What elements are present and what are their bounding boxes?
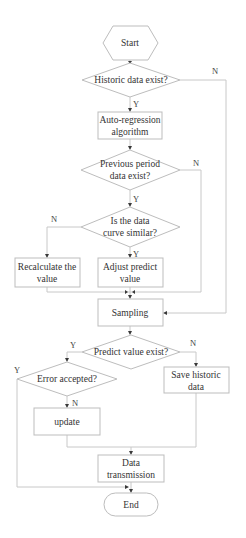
decision-previous-period-data-exist: Previous period data exist? <box>81 150 180 190</box>
end-node: End <box>104 493 158 516</box>
svg-text:Predict value exist?: Predict value exist? <box>94 347 168 357</box>
svg-text:algorithm: algorithm <box>112 127 150 137</box>
svg-text:Error accepted?: Error accepted? <box>37 374 97 384</box>
edge-label-yes: Y <box>133 99 139 109</box>
edge-label-no: N <box>193 158 199 168</box>
svg-text:Previous period: Previous period <box>100 159 160 169</box>
decision-curve-similar: Is the data curve similar? <box>81 207 180 247</box>
edge-label-yes: Y <box>133 194 139 204</box>
svg-text:Sampling: Sampling <box>112 308 149 318</box>
edge-label-no: N <box>72 398 78 408</box>
svg-text:value: value <box>120 274 141 284</box>
process-save-historic-data: Save historic data <box>164 367 229 393</box>
svg-text:Is the data: Is the data <box>110 216 150 226</box>
svg-text:Adjust predict: Adjust predict <box>103 262 157 272</box>
svg-text:Auto-regression: Auto-regression <box>99 115 160 125</box>
process-adjust-predict-value: Adjust predict value <box>98 258 163 287</box>
process-sampling: Sampling <box>98 299 163 326</box>
process-data-transmission: Data transmission <box>98 455 164 482</box>
decision-error-accepted: Error accepted? <box>17 362 117 396</box>
flowchart: Start Historic data exist? N Y Auto-regr… <box>0 0 246 538</box>
edge-label-no: N <box>190 338 196 348</box>
svg-text:Start: Start <box>121 38 139 48</box>
process-auto-regression: Auto-regression algorithm <box>98 112 162 139</box>
svg-text:data exist?: data exist? <box>110 171 150 181</box>
svg-text:Historic data exist?: Historic data exist? <box>94 75 167 85</box>
svg-text:Data: Data <box>122 458 141 468</box>
edge-label-no: N <box>212 66 218 76</box>
decision-predict-value-exist: Predict value exist? <box>82 335 180 369</box>
edge-label-no: N <box>51 214 57 224</box>
start-node: Start <box>103 26 158 60</box>
edge-label-yes: Y <box>70 340 76 350</box>
process-recalculate-value: Recalculate the value <box>15 258 80 287</box>
svg-text:curve similar?: curve similar? <box>103 228 157 238</box>
svg-text:End: End <box>123 500 139 510</box>
process-update: update <box>34 408 100 435</box>
svg-text:Save historic: Save historic <box>171 370 220 380</box>
svg-text:update: update <box>54 417 79 427</box>
svg-text:Recalculate the: Recalculate the <box>18 262 76 272</box>
svg-text:transmission: transmission <box>107 470 155 480</box>
svg-text:value: value <box>37 274 58 284</box>
decision-historic-data-exist: Historic data exist? <box>82 63 180 97</box>
svg-text:data: data <box>188 382 205 392</box>
edge-label-yes: Y <box>14 365 20 375</box>
